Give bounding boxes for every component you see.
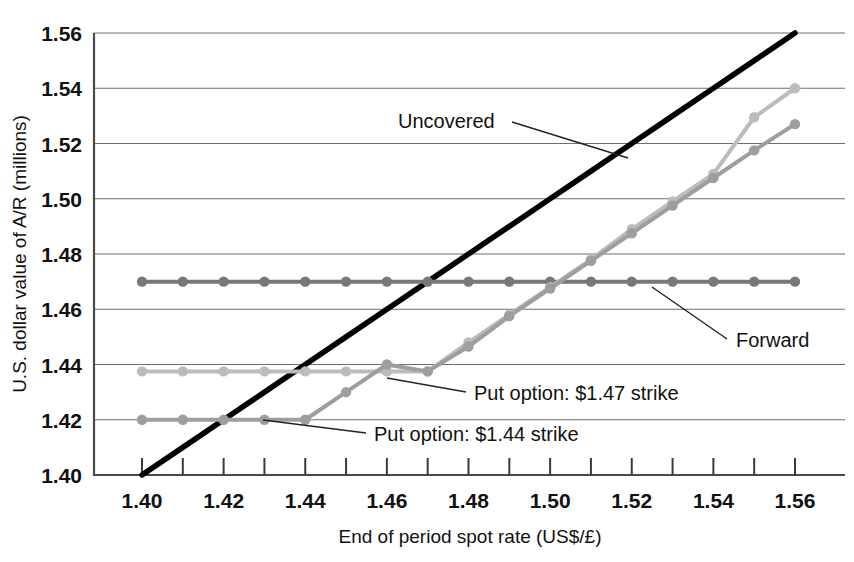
data-point (137, 276, 147, 286)
y-tick-label: 1.42 (41, 409, 82, 432)
y-tick-label: 1.50 (41, 188, 82, 211)
data-point (137, 366, 147, 376)
data-point (586, 276, 596, 286)
annotation-label-put-144: Put option: $1.44 strike (374, 423, 579, 445)
annotation-label-forward: Forward (736, 329, 809, 351)
data-point (627, 228, 637, 238)
data-point (586, 256, 596, 266)
leader-line-uncovered (512, 122, 628, 158)
y-tick-label: 1.48 (41, 243, 82, 266)
x-tick-label: 1.42 (203, 489, 244, 512)
data-point (463, 341, 473, 351)
x-tick-marks (142, 458, 795, 475)
x-axis-title: End of period spot rate (US$/£) (339, 526, 602, 547)
data-point (545, 283, 555, 293)
data-point (178, 415, 188, 425)
data-point (790, 83, 800, 93)
data-point (463, 276, 473, 286)
y-tick-label: 1.40 (41, 464, 82, 487)
data-point (259, 366, 269, 376)
data-point (218, 366, 228, 376)
y-tick-labels: 1.401.421.441.461.481.501.521.541.56 (41, 22, 82, 487)
x-tick-label: 1.50 (530, 489, 571, 512)
data-point (708, 276, 718, 286)
data-point (790, 276, 800, 286)
data-point (790, 119, 800, 129)
data-point (627, 276, 637, 286)
x-tick-label: 1.48 (448, 489, 489, 512)
data-point (259, 276, 269, 286)
data-point (382, 276, 392, 286)
data-point (422, 366, 432, 376)
data-point (504, 311, 514, 321)
data-point (341, 276, 351, 286)
y-axis-title: U.S. dollar value of A/R (millions) (9, 115, 30, 393)
x-tick-label: 1.44 (285, 489, 326, 512)
x-tick-labels: 1.401.421.441.461.481.501.521.541.56 (122, 489, 816, 512)
x-tick-label: 1.54 (693, 489, 734, 512)
annotation-label-uncovered: Uncovered (398, 110, 495, 132)
data-point (300, 276, 310, 286)
y-tick-label: 1.46 (41, 298, 82, 321)
x-tick-label: 1.56 (775, 489, 816, 512)
data-point (708, 173, 718, 183)
annotation-label-put-147: Put option: $1.47 strike (474, 382, 679, 404)
data-point (667, 200, 677, 210)
chart-svg: UncoveredForwardPut option: $1.47 strike… (0, 0, 854, 562)
data-point (341, 366, 351, 376)
x-tick-label: 1.40 (122, 489, 163, 512)
leader-line-put-147 (387, 378, 466, 392)
data-point (504, 276, 514, 286)
series-line-3 (142, 124, 795, 420)
data-point (382, 359, 392, 369)
data-point (749, 276, 759, 286)
data-point (137, 415, 147, 425)
x-tick-label: 1.46 (366, 489, 407, 512)
y-tick-label: 1.44 (41, 354, 82, 377)
data-point (178, 276, 188, 286)
data-point (178, 366, 188, 376)
data-point (218, 276, 228, 286)
data-point (300, 415, 310, 425)
data-point (300, 366, 310, 376)
y-tick-label: 1.52 (41, 133, 82, 156)
y-tick-label: 1.54 (41, 77, 82, 100)
data-point (422, 276, 432, 286)
x-tick-label: 1.52 (611, 489, 652, 512)
data-point (749, 145, 759, 155)
data-point (667, 276, 677, 286)
y-tick-label: 1.56 (41, 22, 82, 45)
leader-line-forward (652, 287, 727, 339)
data-point (341, 387, 351, 397)
data-point (218, 415, 228, 425)
data-point (749, 112, 759, 122)
leader-line-put-144 (263, 420, 366, 433)
chart-container: UncoveredForwardPut option: $1.47 strike… (0, 0, 854, 562)
